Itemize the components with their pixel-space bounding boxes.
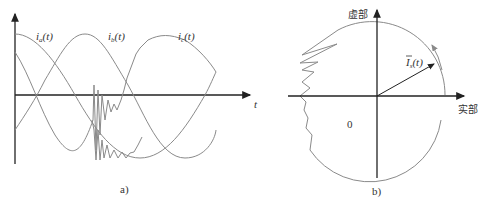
space-vector: [377, 64, 434, 96]
curve-ic: [15, 36, 216, 151]
curve-ia: [15, 34, 216, 158]
x-axis-label: t: [254, 98, 258, 110]
trajectory-disturbed: [300, 30, 338, 150]
label-ia: ia(t): [36, 30, 53, 44]
trajectory-circle: [338, 22, 445, 95]
rotation-arrow: [432, 45, 442, 70]
figure-canvas: ia(t) ib(t) ic(t) t a) 虚部 实部 0 Is(t) b): [0, 0, 489, 208]
label-ic: ic(t): [178, 30, 195, 44]
caption-a: a): [120, 183, 129, 196]
curve-ib: [15, 34, 216, 158]
real-axis-label: 实部: [458, 103, 478, 115]
trajectory-circle-lower: [310, 120, 441, 182]
panel-b: 虚部 实部 0 Is(t) b): [288, 8, 478, 198]
caption-b: b): [372, 185, 382, 198]
imag-axis-label: 虚部: [348, 8, 368, 20]
label-ib: ib(t): [108, 30, 125, 44]
origin-label: 0: [347, 118, 353, 130]
panel-a: ia(t) ib(t) ic(t) t a): [15, 14, 258, 196]
vector-label: Is(t): [405, 56, 423, 70]
